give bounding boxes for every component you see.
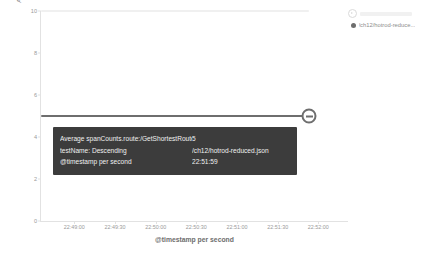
x-tick-label: 22:51:30 <box>267 224 288 231</box>
y-tick-mark <box>38 179 41 180</box>
chart-tooltip: Average spanCounts.route:/GetShortestRou… <box>53 127 297 175</box>
tooltip-key: Average spanCounts.route:/GetShortestRou… <box>60 133 192 145</box>
x-tick-mark <box>115 221 116 224</box>
y-tick-label: 10 <box>31 8 37 14</box>
x-tick-mark <box>74 221 75 224</box>
tooltip-row: testName: Descending/ch12/hotrod-reduced… <box>60 145 290 157</box>
y-tick-label: 0 <box>34 218 37 224</box>
series-line <box>41 10 309 12</box>
legend-toggle-placeholder <box>360 12 412 16</box>
y-tick-mark <box>38 137 41 138</box>
y-tick-label: 6 <box>34 92 37 98</box>
tooltip-value: /ch12/hotrod-reduced.json <box>192 145 290 157</box>
x-tick-mark <box>196 221 197 224</box>
x-tick-label: 22:50:00 <box>145 224 166 231</box>
x-tick-mark <box>278 221 279 224</box>
x-tick-label: 22:49:00 <box>64 224 85 231</box>
tooltip-key: testName: Descending <box>60 145 192 157</box>
plot-area: 0246810 <box>41 11 348 221</box>
legend-item[interactable]: /ch12/hotrod-reduce... <box>348 20 439 30</box>
line-chart-visualization: Average spanCounts.route:/GetShortestRou… <box>0 0 439 255</box>
y-tick-label: 2 <box>34 176 37 182</box>
series-line <box>41 115 309 117</box>
tooltip-value: 22:51:59 <box>192 156 290 168</box>
tooltip-row: Average spanCounts.route:/GetShortestRou… <box>60 133 290 145</box>
x-tick-label: 22:52:00 <box>308 224 329 231</box>
x-tick-label: 22:50:30 <box>186 224 207 231</box>
y-tick-label: 8 <box>34 50 37 56</box>
y-axis-title: Average spanCounts.route:/GetShortestRou… <box>13 0 24 46</box>
chart-legend: /ch12/hotrod-reduce... <box>348 9 439 30</box>
y-tick-mark <box>38 95 41 96</box>
hovered-point-marker[interactable] <box>302 109 317 124</box>
x-tick-mark <box>156 221 157 224</box>
x-axis-title: @timestamp per second <box>40 235 349 245</box>
tooltip-rows: Average spanCounts.route:/GetShortestRou… <box>60 133 290 168</box>
legend-collapse-row[interactable] <box>348 9 439 18</box>
tooltip-key: @timestamp per second <box>60 156 192 168</box>
tooltip-value: 5 <box>192 133 290 145</box>
y-tick-label: 4 <box>34 134 37 140</box>
x-tick-label: 22:49:30 <box>105 224 126 231</box>
x-axis-line <box>40 221 348 222</box>
x-tick-mark <box>318 221 319 224</box>
legend-items: /ch12/hotrod-reduce... <box>348 20 439 30</box>
x-tick-label: 22:51:00 <box>226 224 247 231</box>
chevron-right-circle-icon[interactable] <box>348 9 357 18</box>
y-tick-mark <box>38 221 41 222</box>
legend-item-label: /ch12/hotrod-reduce... <box>359 21 416 30</box>
x-tick-mark <box>237 221 238 224</box>
legend-color-swatch <box>351 23 356 28</box>
tooltip-row: @timestamp per second22:51:59 <box>60 156 290 168</box>
y-tick-mark <box>38 53 41 54</box>
